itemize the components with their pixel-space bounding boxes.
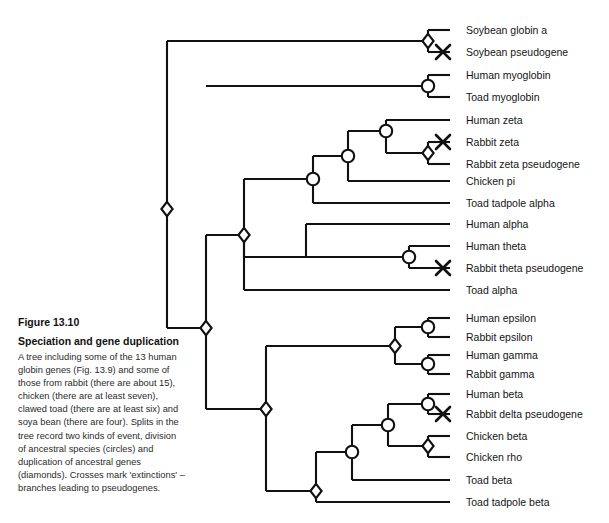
tree-branches xyxy=(167,30,450,502)
tree-node-myoglobin-speciation xyxy=(422,80,434,92)
leaf-label-rabbit-delta-pseudogene: Rabbit delta pseudogene xyxy=(466,409,583,420)
tree-node-toad-beta-duplication xyxy=(310,484,321,498)
leaf-label-rabbit-zeta-pseudogene: Rabbit zeta pseudogene xyxy=(466,159,580,170)
leaf-label-toad-myoglobin: Toad myoglobin xyxy=(466,92,540,103)
caption-title: Speciation and gene duplication xyxy=(18,335,186,347)
tree-node-rabbit-zeta-duplication xyxy=(422,146,433,160)
tree-node-alpha-theta-duplication xyxy=(238,228,249,242)
figure-caption: Figure 13.10 Speciation and gene duplica… xyxy=(18,316,186,495)
caption-body: A tree including some of the 13 human gl… xyxy=(18,351,186,495)
leaf-label-chicken-rho: Chicken rho xyxy=(466,452,522,463)
extinction-crosses xyxy=(436,45,450,421)
tree-node-epsilon-speciation xyxy=(422,321,434,333)
leaf-label-toad-beta: Toad beta xyxy=(466,475,512,486)
tree-node-gamma-speciation xyxy=(422,358,434,370)
tree-nodes xyxy=(161,34,434,498)
leaf-label-rabbit-gamma: Rabbit gamma xyxy=(466,369,534,380)
leaf-label-rabbit-zeta: Rabbit zeta xyxy=(466,137,519,148)
figure-number: Figure 13.10 xyxy=(18,316,186,328)
tree-node-root-duplication xyxy=(200,321,211,335)
tree-node-beta-toad-speciation xyxy=(346,446,358,458)
leaf-label-human-gamma: Human gamma xyxy=(466,350,538,361)
leaf-label-human-alpha: Human alpha xyxy=(466,219,528,230)
tree-node-theta-speciation xyxy=(403,251,415,263)
leaf-label-chicken-pi: Chicken pi xyxy=(466,176,515,187)
leaf-label-toad-tadpole-alpha: Toad tadpole alpha xyxy=(466,198,555,209)
leaf-label-human-theta: Human theta xyxy=(466,241,526,252)
figure-13-10: Soybean globin aSoybean pseudogeneHuman … xyxy=(0,0,609,523)
tree-node-zeta-pi-speciation xyxy=(342,150,354,162)
tree-node-soybean-duplication xyxy=(422,34,433,48)
tree-node-alpha-group-speciation xyxy=(307,173,319,185)
leaf-label-rabbit-theta-pseudogene: Rabbit theta pseudogene xyxy=(466,263,583,274)
leaf-label-human-epsilon: Human epsilon xyxy=(466,313,536,324)
tree-node-epsilon-gamma-duplication xyxy=(389,339,400,353)
leaf-label-human-myoglobin: Human myoglobin xyxy=(466,70,551,81)
leaf-label-toad-tadpole-beta: Toad tadpole beta xyxy=(466,497,550,508)
leaf-label-toad-alpha: Toad alpha xyxy=(466,285,517,296)
leaf-label-human-beta: Human beta xyxy=(466,389,523,400)
leaf-label-soybean-pseudogene: Soybean pseudogene xyxy=(466,47,568,58)
leaf-label-rabbit-epsilon: Rabbit epsilon xyxy=(466,332,533,343)
tree-node-beta-delta-speciation xyxy=(422,398,434,410)
tree-node-zeta-speciation xyxy=(380,125,392,137)
leaf-label-human-zeta: Human zeta xyxy=(466,115,523,126)
tree-node-beta-chicken-speciation xyxy=(382,419,394,431)
leaf-label-soybean-globin-a: Soybean globin a xyxy=(466,25,547,36)
leaf-label-chicken-beta: Chicken beta xyxy=(466,431,527,442)
tree-node-beta-clade-duplication xyxy=(260,402,271,416)
tree-node-chicken-beta-duplication xyxy=(422,439,433,453)
tree-node-ancestral-globin-duplication xyxy=(161,202,172,216)
